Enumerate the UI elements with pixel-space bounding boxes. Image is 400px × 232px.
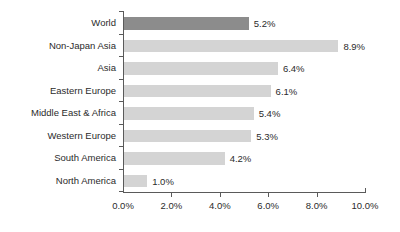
table-row: North America 1.0% <box>0 170 400 193</box>
bar-north-america <box>123 175 147 188</box>
bar-container: 6.4% <box>123 57 400 80</box>
category-label: Asia <box>98 57 123 80</box>
x-axis-endcap <box>365 188 366 193</box>
value-label: 5.3% <box>251 125 278 148</box>
bar-container: 5.4% <box>123 102 400 125</box>
bar-south-america <box>123 152 225 165</box>
table-row: Asia 6.4% <box>0 57 400 80</box>
category-label: Middle East & Africa <box>31 102 123 125</box>
category-label: Western Europe <box>48 125 123 148</box>
x-axis-tick-label: 0.0% <box>112 200 134 211</box>
bar-container: 4.2% <box>123 147 400 170</box>
table-row: Middle East & Africa 5.4% <box>0 102 400 125</box>
bar-asia <box>123 62 278 75</box>
x-axis-endcap <box>123 188 124 193</box>
category-label: Non-Japan Asia <box>49 35 123 58</box>
value-label: 4.2% <box>225 147 252 170</box>
bar-western-europe <box>123 130 251 143</box>
bar-eastern-europe <box>123 85 271 98</box>
y-axis-line <box>123 11 124 193</box>
y-axis-tick <box>119 56 123 57</box>
value-label: 1.0% <box>147 170 174 193</box>
y-axis-tick <box>119 11 123 12</box>
y-axis-tick <box>119 146 123 147</box>
bar-container: 5.2% <box>123 12 400 35</box>
x-axis-tick <box>220 193 221 197</box>
table-row: World 5.2% <box>0 12 400 35</box>
value-label: 8.9% <box>338 35 365 58</box>
category-label: Eastern Europe <box>50 80 123 103</box>
category-label: World <box>91 12 123 35</box>
bar-middle-east-africa <box>123 107 254 120</box>
y-axis-tick <box>119 124 123 125</box>
x-axis-tick-label: 10.0% <box>352 200 379 211</box>
table-row: Western Europe 5.3% <box>0 125 400 148</box>
category-label: North America <box>56 170 123 193</box>
bar-world <box>123 17 249 30</box>
bar-container: 8.9% <box>123 35 400 58</box>
table-row: Non-Japan Asia 8.9% <box>0 35 400 58</box>
bar-non-japan-asia <box>123 40 338 53</box>
x-axis-tick <box>317 193 318 197</box>
x-axis-tick-label: 6.0% <box>257 200 279 211</box>
y-axis-tick <box>119 79 123 80</box>
chart-plot-area: World 5.2% Non-Japan Asia 8.9% Asia 6.4%… <box>0 12 400 192</box>
x-axis-tick-label: 2.0% <box>161 200 183 211</box>
value-label: 5.2% <box>249 12 276 35</box>
y-axis-tick <box>119 169 123 170</box>
value-label: 5.4% <box>254 102 281 125</box>
x-axis-tick-label: 4.0% <box>209 200 231 211</box>
table-row: Eastern Europe 6.1% <box>0 80 400 103</box>
value-label: 6.4% <box>278 57 305 80</box>
x-axis-line <box>123 192 366 193</box>
category-label: South America <box>54 147 123 170</box>
bar-chart: World 5.2% Non-Japan Asia 8.9% Asia 6.4%… <box>0 0 400 232</box>
y-axis-tick <box>119 34 123 35</box>
bar-container: 5.3% <box>123 125 400 148</box>
y-axis-tick <box>119 101 123 102</box>
x-axis-tick <box>171 193 172 197</box>
x-axis-tick-label: 8.0% <box>306 200 328 211</box>
bar-container: 6.1% <box>123 80 400 103</box>
value-label: 6.1% <box>271 80 298 103</box>
x-axis-tick <box>268 193 269 197</box>
table-row: South America 4.2% <box>0 147 400 170</box>
bar-container: 1.0% <box>123 170 400 193</box>
